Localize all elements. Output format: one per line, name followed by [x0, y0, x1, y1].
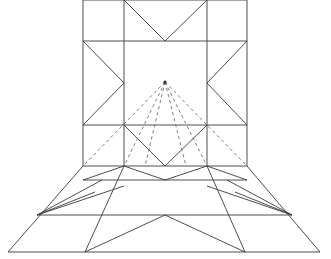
- figure-background: [0, 0, 331, 259]
- perspective-drawing-canvas: [0, 0, 331, 259]
- vanishing-point-marker: [163, 80, 166, 83]
- star-quilt-perspective-figure: [0, 0, 331, 259]
